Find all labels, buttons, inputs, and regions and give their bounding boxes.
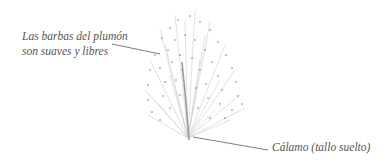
feather-barbs xyxy=(145,10,245,138)
leader-line-calamo xyxy=(193,137,268,150)
feather-speckles xyxy=(147,15,243,121)
calamo-label: Cálamo (tallo suelto) xyxy=(272,140,370,155)
barbs-label: Las barbas del plumón son suaves y libre… xyxy=(22,29,128,59)
barbs-label-line2: son suaves y libres xyxy=(22,44,128,59)
barbs-label-line1: Las barbas del plumón xyxy=(22,29,128,44)
